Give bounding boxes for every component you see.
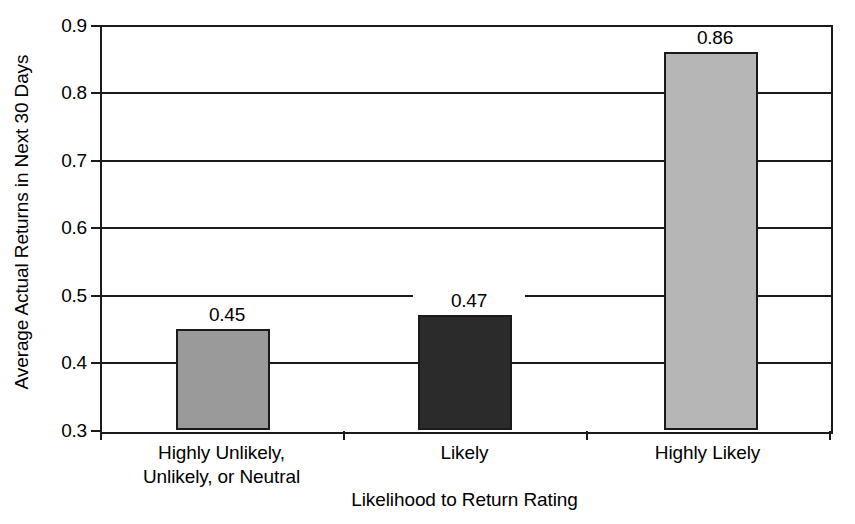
y-tick-label-0-3: 0.3 <box>17 421 87 440</box>
x-tick-label-line1: Likely <box>343 441 586 465</box>
y-tick-label-0-7: 0.7 <box>17 151 87 170</box>
y-tick-label-0-5: 0.5 <box>17 286 87 305</box>
bar-label-likely: 0.47 <box>413 291 525 310</box>
x-axis-title: Likelihood to Return Rating <box>100 489 829 511</box>
x-tick-mark-3 <box>829 431 831 440</box>
bar-label-highly-likely: 0.86 <box>659 28 771 47</box>
y-tick-mark-0-4 <box>91 362 100 364</box>
y-tick-label-0-4: 0.4 <box>17 353 87 372</box>
bar-label-highly-unlikely: 0.45 <box>171 305 283 324</box>
bar-highly-likely <box>664 52 758 430</box>
x-tick-label-line1: Highly Unlikely, <box>100 441 343 465</box>
bar-likely <box>418 315 512 430</box>
x-tick-label-line1: Highly Likely <box>586 441 829 465</box>
x-tick-mark-0 <box>100 431 102 440</box>
y-tick-label-0-6: 0.6 <box>17 218 87 237</box>
x-tick-label-highly-likely: Highly Likely <box>586 441 829 465</box>
bar-chart: Average Actual Returns in Next 30 Days 0… <box>0 0 855 524</box>
y-tick-mark-0-3 <box>91 430 100 432</box>
y-tick-mark-0-9 <box>91 25 100 27</box>
x-tick-label-highly-unlikely: Highly Unlikely, Unlikely, or Neutral <box>100 441 343 489</box>
y-tick-label-0-9: 0.9 <box>17 16 87 35</box>
x-tick-mark-2 <box>586 431 588 440</box>
y-tick-label-0-8: 0.8 <box>17 83 87 102</box>
x-tick-label-likely: Likely <box>343 441 586 465</box>
y-tick-mark-0-5 <box>91 295 100 297</box>
y-tick-mark-0-6 <box>91 227 100 229</box>
x-tick-mark-1 <box>343 431 345 440</box>
x-tick-label-line2: Unlikely, or Neutral <box>100 465 343 489</box>
y-tick-mark-0-7 <box>91 160 100 162</box>
bar-highly-unlikely <box>176 329 270 430</box>
y-tick-mark-0-8 <box>91 92 100 94</box>
